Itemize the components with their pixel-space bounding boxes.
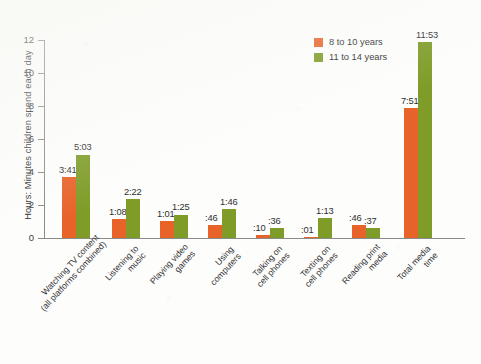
bar-series-b (76, 155, 90, 238)
bar-series-a (404, 108, 418, 238)
legend-item: 8 to 10 years (314, 36, 387, 49)
legend-label: 11 to 14 years (329, 53, 387, 62)
y-tick-label: 12 (0, 35, 34, 45)
y-tick-label: 8 (0, 101, 34, 111)
bar-series-a (256, 235, 270, 238)
x-category-label: Texting on cell phones (296, 244, 340, 289)
bar-series-b (318, 218, 332, 238)
bar-group: 1:082:22 (112, 40, 140, 238)
bar-value-label: 1:25 (172, 203, 190, 212)
x-category-label: Playing video games (149, 243, 198, 294)
bar-value-label: :46 (349, 214, 362, 223)
x-axis-line (44, 238, 465, 239)
bar-group: 1:011:25 (160, 40, 188, 238)
bar-series-b (418, 42, 432, 238)
y-tick-label: 10 (0, 68, 34, 78)
bar-value-label: :46 (205, 214, 218, 223)
legend-color-swatch (314, 38, 323, 47)
x-category-label: Watching TV content (all platforms combi… (32, 233, 109, 313)
bar-value-label: :37 (364, 217, 377, 226)
y-tick-mark (38, 238, 44, 239)
chart-legend: 8 to 10 years11 to 14 years (314, 36, 387, 66)
bar-value-label: 5:03 (74, 143, 92, 152)
x-category-label: Listening to music (104, 244, 148, 289)
y-tick-label: 6 (0, 134, 34, 144)
x-category-label: Reading print media (341, 243, 390, 294)
bar-value-label: 2:22 (124, 188, 142, 197)
bar-series-b (222, 209, 236, 238)
plot-area: 3:415:031:082:221:011:25:461:46:10:36:01… (44, 40, 465, 238)
x-category-label: Total media time (396, 244, 440, 289)
bar-value-label: 1:46 (220, 198, 238, 207)
legend-color-swatch (314, 53, 323, 62)
x-category-label: Using computers (202, 245, 244, 288)
y-tick-label: 4 (0, 167, 34, 177)
bar-series-b (174, 215, 188, 238)
bar-series-a (160, 221, 174, 238)
bar-series-a (112, 219, 126, 238)
bar-value-label: 7:51 (401, 97, 419, 106)
bar-series-b (126, 199, 140, 238)
bar-series-a (62, 177, 76, 238)
bar-series-b (366, 228, 380, 238)
bar-group: 3:415:03 (62, 40, 90, 238)
bar-chart: Hours: Minutes children spend each day 1… (0, 0, 481, 364)
bar-series-a (208, 225, 222, 238)
y-tick-label: 0 (0, 233, 34, 243)
bar-group: :46:37 (352, 40, 380, 238)
bar-group: :461:46 (208, 40, 236, 238)
bar-group: :10:36 (256, 40, 284, 238)
legend-item: 11 to 14 years (314, 51, 387, 64)
bar-value-label: :10 (253, 224, 266, 233)
legend-label: 8 to 10 years (329, 38, 383, 47)
x-category-label: Talking on cell phones (248, 244, 292, 289)
bar-value-label: 3:41 (59, 166, 77, 175)
bar-series-b (270, 228, 284, 238)
bar-value-label: :36 (268, 217, 281, 226)
bar-group: :011:13 (304, 40, 332, 238)
bar-value-label: 1:13 (316, 207, 334, 216)
bar-value-label: 11:53 (416, 31, 438, 40)
y-tick-label: 2 (0, 200, 34, 210)
bar-series-a (304, 237, 318, 238)
bar-series-a (352, 225, 366, 238)
bar-group: 7:5111:53 (404, 40, 432, 238)
bar-value-label: 1:08 (109, 208, 127, 217)
bar-value-label: :01 (301, 226, 314, 235)
